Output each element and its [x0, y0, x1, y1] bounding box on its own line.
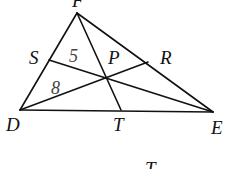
side-de: [20, 110, 213, 112]
label-e: E: [210, 117, 223, 138]
extra-label-t: T: [145, 158, 157, 169]
label-r: R: [159, 47, 172, 68]
label-p: P: [107, 47, 120, 68]
label-d: D: [5, 114, 20, 135]
label-s: S: [29, 47, 39, 68]
triangle-diagram: F D E S R P T 5 8 T: [0, 0, 231, 169]
label-t: T: [113, 114, 125, 135]
measure-sp: 5: [69, 46, 78, 66]
measure-dp: 8: [51, 78, 60, 98]
label-f: F: [71, 0, 84, 11]
